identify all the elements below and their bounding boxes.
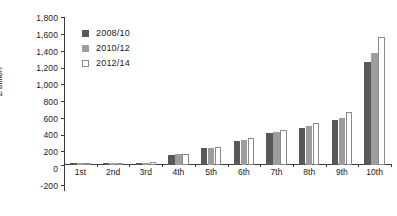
bar-6th-2008-10: [234, 141, 240, 165]
x-tick-label-2nd: 2nd: [97, 168, 130, 177]
bar-7th-2008-10: [266, 133, 272, 164]
y-tick-label: 600: [0, 115, 58, 124]
x-tick-label-5th: 5th: [195, 168, 228, 177]
bar-1st-2012-14: [84, 163, 90, 165]
y-tick-label: 800: [0, 98, 58, 107]
chart-container: 1,800 1,600 1,400 1,200 1,000 800 600 40…: [0, 0, 397, 216]
bar-4th-2010-12: [175, 154, 181, 164]
y-tick-label: 200: [0, 148, 58, 157]
bar-1st-2010-12: [77, 163, 83, 165]
x-tick-label-8th: 8th: [293, 168, 326, 177]
bar-9th-2012-14: [346, 112, 352, 164]
x-tick-mark: [97, 164, 98, 167]
x-tick-mark: [162, 164, 163, 167]
y-tick-label: 1,600: [0, 31, 58, 40]
bar-10th-2010-12: [371, 53, 377, 165]
bar-10th-2012-14: [378, 37, 384, 165]
bar-4th-2008-10: [168, 155, 174, 165]
x-tick-mark: [195, 164, 196, 167]
bar-2nd-2012-14: [117, 163, 123, 165]
y-tick-label: 1,400: [0, 48, 58, 57]
bar-3rd-2010-12: [143, 163, 149, 165]
x-tick-label-4th: 4th: [162, 168, 195, 177]
bar-8th-2012-14: [313, 123, 319, 165]
y-tick-label: 400: [0, 131, 58, 140]
y-tick-label: -200: [0, 182, 58, 191]
bar-6th-2012-14: [248, 138, 254, 164]
x-tick-mark: [326, 164, 327, 167]
bar-8th-2010-12: [306, 126, 312, 165]
y-tick-label: 1,000: [0, 81, 58, 90]
x-tick-label-9th: 9th: [326, 168, 359, 177]
y-tick-label: 1,800: [0, 14, 58, 23]
x-tick-label-6th: 6th: [228, 168, 261, 177]
bar-10th-2008-10: [364, 62, 370, 165]
bar-1st-2008-10: [70, 163, 76, 165]
bar-3rd-2008-10: [136, 163, 142, 165]
y-axis-title: £ billion: [0, 67, 4, 96]
bar-7th-2012-14: [280, 130, 286, 164]
x-tick-mark: [260, 164, 261, 167]
x-tick-mark: [391, 164, 392, 167]
bar-5th-2012-14: [215, 147, 221, 165]
x-tick-mark: [129, 164, 130, 167]
x-tick-mark: [228, 164, 229, 167]
bar-7th-2010-12: [273, 132, 279, 164]
bar-3rd-2012-14: [150, 162, 156, 164]
bar-9th-2008-10: [332, 120, 338, 164]
bar-2nd-2008-10: [103, 163, 109, 165]
x-tick-label-1st: 1st: [64, 168, 97, 177]
bar-4th-2012-14: [182, 154, 188, 165]
y-tick-label: 0: [0, 165, 58, 174]
bar-5th-2008-10: [201, 148, 207, 164]
bar-5th-2010-12: [208, 148, 214, 165]
y-axis-ticks: 1,800 1,600 1,400 1,200 1,000 800 600 40…: [0, 0, 58, 216]
bar-9th-2010-12: [339, 118, 345, 165]
bars-layer: [64, 17, 391, 165]
x-tick-mark: [293, 164, 294, 167]
bar-6th-2010-12: [241, 140, 247, 165]
x-tick-mark: [64, 164, 65, 167]
y-tick-label: 1,200: [0, 64, 58, 73]
x-tick-label-3rd: 3rd: [129, 168, 162, 177]
x-tick-label-10th: 10th: [358, 168, 391, 177]
bar-2nd-2010-12: [110, 163, 116, 165]
x-tick-label-7th: 7th: [260, 168, 293, 177]
bar-8th-2008-10: [299, 128, 305, 165]
x-tick-mark: [358, 164, 359, 167]
